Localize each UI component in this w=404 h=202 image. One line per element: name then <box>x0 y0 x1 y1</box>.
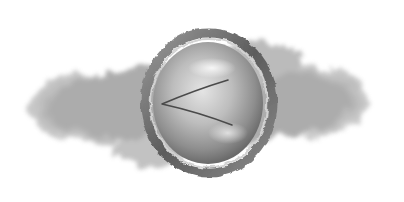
chevron-left-icon <box>140 28 278 178</box>
back-button-graphic <box>0 0 404 202</box>
back-button[interactable] <box>140 28 278 178</box>
